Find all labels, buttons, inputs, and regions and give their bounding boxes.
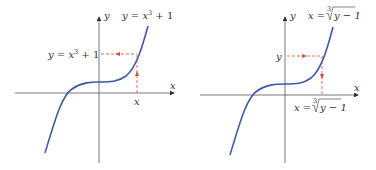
left-y-value-label: y = x3 + 1 xyxy=(47,48,99,60)
right-curve-cubic xyxy=(230,27,333,155)
left-arrow-up-icon xyxy=(135,71,139,76)
left-curve-label: y = x3 + 1 xyxy=(121,9,173,21)
right-x-value-label: x = 3 y − 1 xyxy=(294,97,347,113)
right-y-axis-label: y xyxy=(289,10,296,21)
svg-text:y − 1: y − 1 xyxy=(319,102,347,113)
right-x-axis-label: x xyxy=(354,82,360,93)
left-x-value-label: x xyxy=(134,96,140,107)
left-graph: y x x y = x3 + 1 y = x3 + 1 xyxy=(15,9,176,163)
left-x-axis-label: x xyxy=(170,80,176,91)
left-curve-cubic xyxy=(45,26,148,153)
svg-text:x =: x = xyxy=(308,10,325,21)
right-graph: y x y x = 3 y − 1 x = 3 y − 1 xyxy=(200,5,361,163)
svg-text:3: 3 xyxy=(313,97,317,105)
left-y-axis-label: y xyxy=(103,10,110,21)
svg-text:y − 1: y − 1 xyxy=(333,10,361,21)
left-arrow-left-icon xyxy=(115,52,120,56)
right-arrow-down-icon xyxy=(320,74,324,79)
right-arrow-right-icon xyxy=(302,54,307,58)
right-y-value-label: y xyxy=(275,51,282,62)
diagram-canvas: y x x y = x3 + 1 y = x3 + 1 y x y x = 3 … xyxy=(0,0,376,170)
svg-text:3: 3 xyxy=(327,5,331,13)
right-curve-label: x = 3 y − 1 xyxy=(308,5,361,21)
svg-text:x =: x = xyxy=(294,102,311,113)
